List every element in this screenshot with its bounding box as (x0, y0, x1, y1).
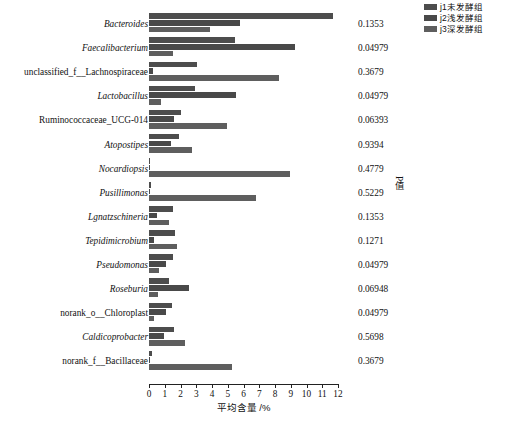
bar-j2浅发酵组 (149, 189, 150, 195)
x-tick-label: 2 (178, 389, 183, 399)
p-value: 0.1271 (358, 229, 384, 253)
chart-row: Caldicoprobacter0.5698 (0, 325, 510, 349)
plot-area: Bacteroides0.1353Faecalibacterium0.04979… (0, 12, 510, 384)
bar-j1未发酵组 (149, 86, 195, 92)
category-label: Pseudomonas (0, 253, 148, 277)
x-tick (181, 384, 182, 388)
x-tick-label: 3 (194, 389, 199, 399)
bar-j1未发酵组 (149, 254, 173, 260)
bar-group (149, 158, 349, 179)
bar-j2浅发酵组 (149, 309, 166, 315)
bar-j2浅发酵组 (149, 237, 154, 243)
x-axis: 0123456789101112 (149, 384, 338, 385)
bar-j1未发酵组 (149, 327, 174, 333)
chart-row: Bacteroides0.1353 (0, 12, 510, 36)
bar-j3深发酵组 (149, 364, 232, 370)
p-value: 0.04979 (358, 301, 388, 325)
bar-group (149, 278, 349, 299)
bar-j1未发酵组 (149, 303, 172, 309)
p-value: 0.04979 (358, 84, 388, 108)
bar-j1未发酵组 (149, 278, 169, 284)
x-tick-label: 8 (273, 389, 278, 399)
chart-row: Tepidimicrobium0.1271 (0, 229, 510, 253)
x-tick (259, 384, 260, 388)
category-label: Faecalibacterium (0, 36, 148, 60)
x-tick-label: 6 (241, 389, 246, 399)
p-value-axis-label: P值 (392, 176, 406, 190)
bar-group (149, 86, 349, 107)
x-tick-label: 7 (257, 389, 262, 399)
p-value: 0.04979 (358, 36, 388, 60)
bar-group (149, 182, 349, 203)
bar-j1未发酵组 (149, 230, 175, 236)
p-value: 0.06948 (358, 277, 388, 301)
chart-row: Nocardiopsis0.4779 (0, 157, 510, 181)
bar-group (149, 110, 349, 131)
bar-j2浅发酵组 (149, 116, 174, 122)
bar-j2浅发酵组 (149, 261, 166, 267)
bar-j3深发酵组 (149, 316, 154, 322)
x-tick (212, 384, 213, 388)
x-tick-label: 11 (318, 389, 327, 399)
bar-j1未发酵组 (149, 158, 150, 164)
bar-j1未发酵组 (149, 134, 179, 140)
bar-j2浅发酵组 (149, 285, 189, 291)
chart-row: Ruminococcaceae_UCG-0140.06393 (0, 108, 510, 132)
bar-j3深发酵组 (149, 268, 159, 274)
bar-group (149, 62, 349, 83)
x-tick (275, 384, 276, 388)
category-label: Roseburia (0, 277, 148, 301)
bar-j1未发酵组 (149, 37, 235, 43)
x-tick (291, 384, 292, 388)
p-value: 0.1353 (358, 205, 384, 229)
p-value: 0.1353 (358, 12, 384, 36)
x-tick-label: 4 (210, 389, 215, 399)
category-label: Nocardiopsis (0, 157, 148, 181)
bar-j3深发酵组 (149, 244, 177, 250)
chart-row: Roseburia0.06948 (0, 277, 510, 301)
legend-item-j1: j1未发酵组 (424, 2, 510, 12)
chart-row: Lactobacillus0.04979 (0, 84, 510, 108)
bar-j2浅发酵组 (149, 141, 171, 147)
p-value: 0.04979 (358, 253, 388, 277)
x-tick-label: 9 (288, 389, 293, 399)
chart-row: Pseudomonas0.04979 (0, 253, 510, 277)
bar-j3深发酵组 (149, 292, 158, 298)
x-tick (338, 384, 339, 388)
legend-swatch-j1 (424, 4, 437, 10)
bar-j1未发酵组 (149, 110, 181, 116)
bar-j3深发酵组 (149, 220, 169, 226)
chart-row: Lgnatzschineria0.1353 (0, 205, 510, 229)
category-label: Caldicoprobacter (0, 325, 148, 349)
p-value: 0.06393 (358, 108, 388, 132)
bar-j1未发酵组 (149, 13, 333, 19)
category-label: Atopostipes (0, 132, 148, 156)
bar-group (149, 351, 349, 372)
bar-j2浅发酵组 (149, 68, 153, 74)
bar-j3深发酵组 (149, 99, 161, 105)
p-value: 0.5229 (358, 181, 384, 205)
x-tick-label: 0 (147, 389, 152, 399)
chart-row: Pusillimonas0.5229 (0, 181, 510, 205)
bar-group (149, 327, 349, 348)
legend-label-j1: j1未发酵组 (440, 2, 483, 12)
bar-group (149, 206, 349, 227)
bar-group (149, 254, 349, 275)
p-value: 0.3679 (358, 349, 384, 373)
bar-j1未发酵组 (149, 62, 197, 68)
bar-group (149, 13, 349, 34)
bar-group (149, 134, 349, 155)
x-tick-label: 5 (225, 389, 230, 399)
bar-j3深发酵组 (149, 75, 279, 81)
bar-j2浅发酵组 (149, 357, 150, 363)
x-tick-label: 1 (162, 389, 167, 399)
bar-j1未发酵组 (149, 182, 151, 188)
x-tick-label: 12 (333, 389, 342, 399)
category-label: Bacteroides (0, 12, 148, 36)
bar-j3深发酵组 (149, 51, 173, 57)
category-label: norank_o__Chloroplast (0, 301, 148, 325)
bar-j3深发酵组 (149, 171, 290, 177)
x-tick (165, 384, 166, 388)
bar-group (149, 303, 349, 324)
category-label: Pusillimonas (0, 181, 148, 205)
